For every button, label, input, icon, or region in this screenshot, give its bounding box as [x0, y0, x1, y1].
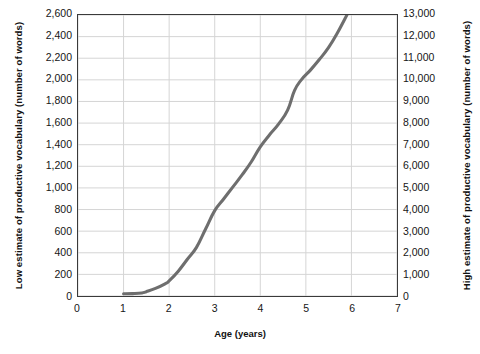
y-axis-right-tick: 10,000: [403, 73, 435, 84]
x-axis-tick: 3: [203, 302, 227, 314]
y-axis-left-tick: 2,200: [46, 52, 72, 63]
y-axis-left-tick: 800: [54, 204, 72, 215]
y-axis-left-tick: 1,800: [46, 95, 72, 106]
y-axis-right-tick: 8,000: [403, 117, 429, 128]
y-axis-right-tick: 13,000: [403, 8, 435, 19]
y-axis-right-tick: 2,000: [403, 247, 429, 258]
y-axis-right-tick: 12,000: [403, 30, 435, 41]
x-axis-tick: 2: [157, 302, 181, 314]
y-axis-left-tick: 1,600: [46, 117, 72, 128]
y-axis-right-tick: 0: [403, 291, 409, 302]
left-axis-tick-labels: 02004006008001,0001,2001,4001,6001,8002,…: [8, 0, 72, 354]
chart-container: Low estimate of productive vocabulary (n…: [0, 0, 480, 354]
x-axis-tick: 7: [386, 302, 410, 314]
y-axis-left-tick: 400: [54, 247, 72, 258]
right-axis-tick-labels: 01,0002,0003,0004,0005,0006,0007,0008,00…: [403, 0, 463, 354]
x-axis-tick: 4: [248, 302, 272, 314]
x-axis-tick-labels: 01234567: [0, 302, 480, 322]
y-axis-right-tick: 1,000: [403, 269, 429, 280]
x-axis-tick: 5: [294, 302, 318, 314]
y-axis-right-tick: 7,000: [403, 139, 429, 150]
y-axis-right-tick: 4,000: [403, 204, 429, 215]
plot-area: [77, 14, 398, 297]
y-axis-left-tick: 200: [54, 269, 72, 280]
y-axis-right-tick: 3,000: [403, 226, 429, 237]
y-axis-right-tick: 6,000: [403, 160, 429, 171]
y-axis-right-tick: 9,000: [403, 95, 429, 106]
y-axis-right-tick: 5,000: [403, 182, 429, 193]
vocabulary-growth-line: [78, 15, 397, 296]
x-axis-tick: 0: [65, 302, 89, 314]
x-axis-tick: 1: [111, 302, 135, 314]
y-axis-left-tick: 2,400: [46, 30, 72, 41]
y-axis-left-tick: 600: [54, 226, 72, 237]
y-axis-left-tick: 2,000: [46, 73, 72, 84]
y-axis-left-tick: 1,000: [46, 182, 72, 193]
y-axis-left-tick: 0: [66, 291, 72, 302]
y-axis-left-tick: 1,400: [46, 139, 72, 150]
x-axis-tick: 6: [340, 302, 364, 314]
y-axis-left-tick: 1,200: [46, 160, 72, 171]
y-axis-left-tick: 2,600: [46, 8, 72, 19]
y-axis-right-tick: 11,000: [403, 52, 434, 63]
